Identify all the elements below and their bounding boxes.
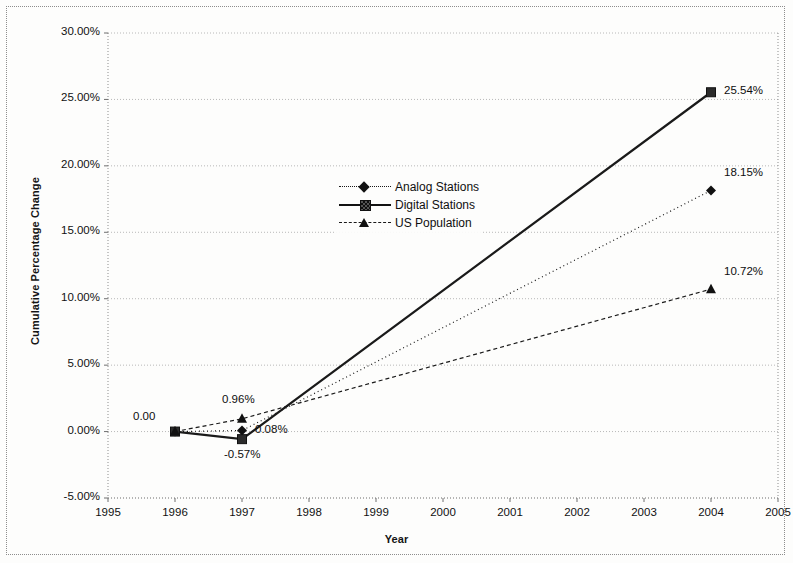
legend-label-analog-stations: Analog Stations [391,180,479,194]
x-axis-title: Year [0,533,793,545]
x-tick-label: 1996 [140,506,210,518]
data-point-label: 0.08% [255,423,288,435]
y-tick-label: 25.00% [26,91,100,103]
gridlines [108,33,778,498]
legend-label-digital-stations: Digital Stations [391,198,475,212]
series-lines [175,92,711,439]
data-point-label: 0.00 [133,410,155,422]
chart-figure: -5.00%0.00%5.00%10.00%15.00%20.00%25.00%… [0,0,793,563]
legend-label-us-population: US Population [391,216,472,230]
chart-legend: Analog Stations Digital Stations US Popu… [336,176,482,234]
data-point-label: 0.96% [222,393,255,405]
x-tick-label: 2002 [542,506,612,518]
x-tick-label: 2005 [743,506,793,518]
data-point-label: 25.54% [724,84,763,96]
x-tick-label: 2000 [408,506,478,518]
triangle-marker-icon [359,218,369,227]
series-markers [170,88,716,444]
axis-lines [108,33,778,498]
legend-key-analog-stations [339,179,391,195]
plot-area [0,0,793,563]
y-tick-label: 30.00% [26,25,100,37]
diamond-marker-icon [358,181,369,192]
legend-item-us-population: US Population [339,214,479,232]
x-tick-label: 1999 [341,506,411,518]
legend-item-analog-stations: Analog Stations [339,178,479,196]
y-tick-label: 0.00% [26,424,100,436]
square-marker-icon [360,200,371,211]
x-tick-label: 2001 [475,506,545,518]
x-tick-label: 1997 [207,506,277,518]
data-point-label: 18.15% [724,166,763,178]
x-tick-label: 2004 [676,506,746,518]
legend-item-digital-stations: Digital Stations [339,196,479,214]
data-point-label: 10.72% [724,265,763,277]
x-tick-label: 2003 [609,506,679,518]
x-tick-label: 1998 [274,506,344,518]
data-point-label: -0.57% [224,448,260,460]
legend-key-digital-stations [339,197,391,213]
y-tick-label: -5.00% [26,490,100,502]
x-tick-label: 1995 [73,506,143,518]
y-axis-title: Cumulative Percentage Change [29,131,41,391]
legend-key-us-population [339,215,391,231]
